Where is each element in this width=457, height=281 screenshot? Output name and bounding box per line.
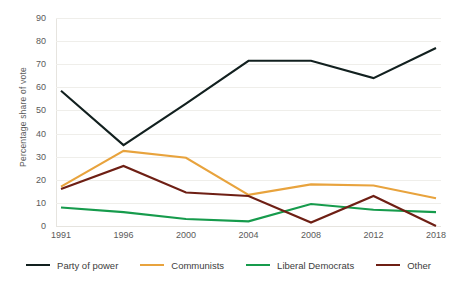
- line-chart: Percentage share of vote 010203040506070…: [0, 0, 457, 281]
- series-layer: [56, 18, 441, 226]
- x-axis-tick-labels: 1991199620002004200820122018: [56, 230, 441, 246]
- series-line-communists: [61, 151, 436, 198]
- x-tick-label: 2000: [176, 230, 196, 240]
- x-tick-label: 1991: [51, 230, 71, 240]
- x-tick-label: 1996: [113, 230, 133, 240]
- y-tick-label: 10: [36, 198, 46, 208]
- legend-label: Party of power: [57, 260, 118, 271]
- legend-label: Communists: [171, 260, 224, 271]
- legend-item-other[interactable]: Other: [376, 260, 431, 271]
- series-line-liberal-democrats: [61, 204, 436, 221]
- y-tick-label: 20: [36, 175, 46, 185]
- legend-swatch: [246, 264, 270, 266]
- y-tick-label: 40: [36, 129, 46, 139]
- x-tick-label: 2012: [363, 230, 383, 240]
- y-axis-tick-labels: 0102030405060708090: [0, 18, 50, 226]
- y-tick-label: 90: [36, 13, 46, 23]
- legend-swatch: [376, 264, 400, 266]
- x-tick-label: 2008: [301, 230, 321, 240]
- plot-area: [56, 18, 441, 226]
- y-tick-label: 30: [36, 152, 46, 162]
- y-tick-label: 60: [36, 82, 46, 92]
- legend-item-liberal-democrats[interactable]: Liberal Democrats: [246, 260, 354, 271]
- gridline-0: [56, 226, 441, 227]
- series-line-other: [61, 166, 436, 226]
- legend-item-party-of-power[interactable]: Party of power: [26, 260, 118, 271]
- series-line-party-of-power: [61, 48, 436, 145]
- legend-swatch: [140, 264, 164, 266]
- legend-item-communists[interactable]: Communists: [140, 260, 224, 271]
- legend: Party of powerCommunistsLiberal Democrat…: [0, 256, 457, 274]
- y-tick-label: 50: [36, 105, 46, 115]
- legend-label: Other: [407, 260, 431, 271]
- y-tick-label: 0: [41, 221, 46, 231]
- x-tick-label: 2018: [426, 230, 446, 240]
- y-tick-label: 80: [36, 36, 46, 46]
- legend-label: Liberal Democrats: [277, 260, 354, 271]
- legend-swatch: [26, 264, 50, 266]
- y-tick-label: 70: [36, 59, 46, 69]
- x-tick-label: 2004: [238, 230, 258, 240]
